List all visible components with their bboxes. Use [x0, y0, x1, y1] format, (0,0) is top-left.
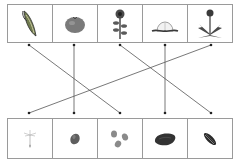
plant-dot-2[interactable] — [73, 44, 76, 47]
corn-kernels-icon — [108, 128, 132, 150]
peach-pit-icon — [153, 131, 177, 147]
seeds-row — [7, 118, 233, 159]
connection-line-sunflower — [120, 45, 211, 113]
seed-dot-1[interactable] — [28, 112, 31, 115]
seed-dot-4[interactable] — [164, 112, 167, 115]
tomato-seed-icon — [68, 132, 82, 146]
connection-line-dandelion — [29, 45, 211, 113]
plant-dot-4[interactable] — [164, 44, 167, 47]
seed-cell-dandelion[interactable] — [8, 119, 53, 158]
seed-cell-tomato[interactable] — [53, 119, 98, 158]
seed-cell-corn-kernels[interactable] — [98, 119, 143, 158]
seed-dot-2[interactable] — [73, 112, 76, 115]
plant-dot-5[interactable] — [210, 44, 213, 47]
connection-line-corn — [29, 45, 120, 113]
plant-dot-3[interactable] — [119, 44, 122, 47]
seed-dot-3[interactable] — [119, 112, 122, 115]
seed-dot-5[interactable] — [210, 112, 213, 115]
plant-dot-1[interactable] — [28, 44, 31, 47]
seed-cell-peach-pit[interactable] — [143, 119, 188, 158]
dandelion-seed-icon — [23, 129, 37, 149]
sunflower-seed-icon — [201, 130, 219, 148]
seed-cell-sunflower-seed[interactable] — [188, 119, 232, 158]
